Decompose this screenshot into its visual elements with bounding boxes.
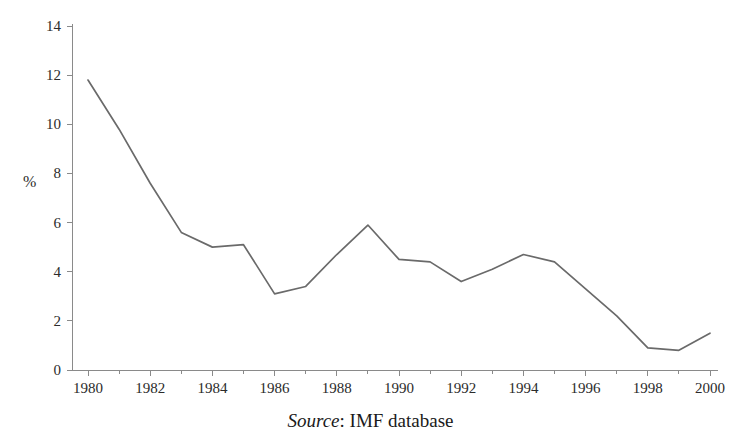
source-value: IMF database (350, 410, 454, 431)
x-tick-label: 1988 (322, 380, 352, 396)
x-axis-ticks: 1980198219841986198819901992199419961998… (73, 370, 725, 396)
y-tick-label: 12 (46, 67, 61, 83)
x-tick-label: 2000 (695, 380, 725, 396)
x-tick-label: 1982 (135, 380, 165, 396)
x-tick-label: 1998 (633, 380, 663, 396)
line-chart-plot: 02468101214 1980198219841986198819901992… (0, 0, 741, 444)
y-tick-label: 6 (54, 215, 62, 231)
data-series-line (88, 80, 710, 350)
source-note: Source: IMF database (0, 410, 741, 432)
x-tick-label: 1984 (197, 380, 228, 396)
source-separator: : (340, 410, 345, 431)
chart-figure: % 02468101214 19801982198419861988199019… (0, 0, 741, 444)
y-tick-label: 0 (54, 362, 62, 378)
x-tick-label: 1980 (73, 380, 103, 396)
y-tick-label: 2 (54, 313, 62, 329)
y-axis-ticks: 02468101214 (46, 18, 72, 378)
y-tick-label: 8 (54, 165, 62, 181)
x-tick-label: 1992 (446, 380, 476, 396)
x-tick-label: 1996 (571, 380, 602, 396)
y-tick-label: 14 (46, 18, 62, 34)
x-tick-label: 1994 (508, 380, 539, 396)
x-tick-label: 1990 (384, 380, 414, 396)
y-tick-label: 10 (46, 116, 61, 132)
x-tick-label: 1986 (260, 380, 291, 396)
source-label: Source (287, 410, 339, 431)
y-tick-label: 4 (54, 264, 62, 280)
